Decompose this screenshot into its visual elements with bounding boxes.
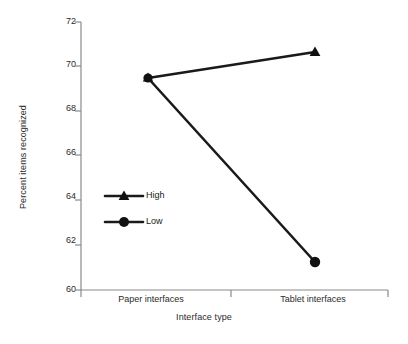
chart-figure: Percent items recognized Interface type …: [0, 0, 408, 344]
plot-area: [0, 0, 408, 344]
data-point-low-tablet: [310, 257, 320, 267]
series-line-high: [148, 52, 315, 78]
data-point-high-tablet: [310, 47, 321, 57]
series-line-low: [148, 78, 315, 262]
x-tick-marks: [81, 290, 388, 297]
legend-marker-circle-icon: [119, 217, 129, 227]
y-tick-marks: [75, 22, 81, 290]
